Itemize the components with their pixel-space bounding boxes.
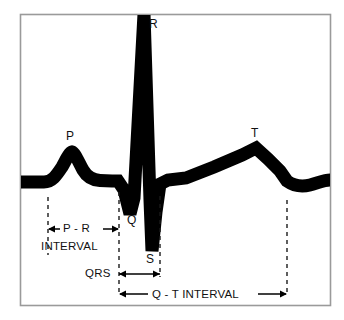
wave-label-s: S	[146, 253, 154, 265]
wave-label-r: R	[149, 18, 158, 30]
wave-label-t: T	[251, 127, 258, 139]
qrs-label: QRS	[85, 267, 111, 279]
pr-interval-label-line2: INTERVAL	[41, 240, 98, 252]
qt-interval-label: Q - T INTERVAL	[152, 288, 239, 300]
ecg-figure: P R Q S T P - R INTERVAL QRS Q - T INTER…	[0, 0, 344, 320]
wave-label-q: Q	[127, 214, 136, 226]
ecg-waveform-svg	[0, 0, 344, 320]
qrs-interval-arrow	[119, 271, 160, 278]
wave-label-p: P	[66, 130, 74, 142]
pr-interval-label: P - R	[63, 222, 90, 234]
